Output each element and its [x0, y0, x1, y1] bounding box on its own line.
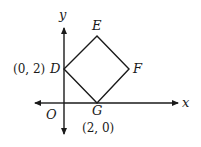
vertex-label-d: D	[49, 61, 61, 76]
coord-label-g: (2, 0)	[82, 121, 114, 135]
y-axis-label: y	[58, 7, 67, 22]
square-defg	[64, 36, 129, 103]
x-axis-label: x	[182, 95, 190, 110]
origin-label: O	[46, 107, 57, 122]
vertex-label-e: E	[91, 18, 102, 33]
coord-label-d: (0, 2)	[13, 62, 45, 76]
vertex-label-g: G	[92, 103, 102, 118]
coordinate-diagram: y x O E D F G (0, 2) (2, 0)	[0, 0, 201, 147]
vertex-label-f: F	[132, 61, 143, 76]
